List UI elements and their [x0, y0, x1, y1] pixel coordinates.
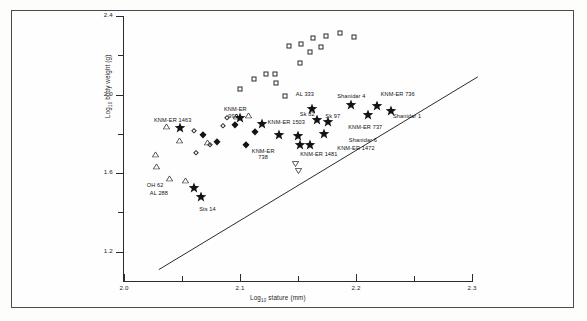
data-point-filled-diamond	[213, 138, 220, 145]
data-point-label: KNM-ER 736	[381, 91, 415, 97]
data-point-filled-star	[195, 191, 206, 202]
data-point-open-triangle	[177, 140, 183, 145]
data-point-open-square	[307, 50, 312, 55]
data-point-label: AL 333	[296, 91, 314, 97]
data-point-open-square	[351, 35, 356, 40]
data-point-label: KNM-ER 737	[348, 124, 382, 130]
data-point-open-square	[251, 77, 256, 82]
data-point-open-triangle	[163, 127, 169, 132]
data-point-open-square	[238, 86, 243, 91]
data-point-open-square	[298, 61, 303, 66]
data-point-filled-star	[304, 140, 315, 151]
data-point-open-diamond	[193, 150, 199, 156]
data-point-filled-star	[318, 128, 329, 139]
data-point-filled-diamond	[199, 131, 206, 138]
data-point-open-diamond	[219, 123, 225, 129]
data-point-open-triangle	[153, 166, 159, 171]
data-point-label: Shanidar 4	[337, 93, 365, 99]
data-point-label: 738	[258, 154, 268, 160]
data-point-filled-star	[274, 129, 285, 140]
data-point-filled-star	[256, 119, 267, 130]
data-point-label: AL 288	[150, 190, 168, 196]
data-point-open-square	[286, 44, 291, 49]
data-point-label: Sts 14	[199, 206, 216, 212]
data-point-open-square	[263, 71, 268, 76]
plot-area: KNM-ER 1463OH 62AL 288Sts 14KNM-ER993KNM…	[124, 16, 472, 281]
data-point-open-triangle	[166, 178, 172, 183]
data-point-open-square	[283, 93, 288, 98]
data-point-label: KNM-ER 1472	[337, 145, 374, 151]
data-point-label: 993	[228, 113, 238, 119]
data-point-label: Sk 82	[300, 111, 315, 117]
data-point-label: KNM-ER 1463	[154, 117, 191, 123]
data-point-open-triangle	[152, 155, 158, 160]
data-point-label: OH 62	[147, 182, 164, 188]
data-point-open-triangle	[245, 116, 251, 121]
data-point-label: KNM-ER 1481	[300, 151, 337, 157]
data-point-open-square	[272, 71, 277, 76]
data-point-open-diamond	[190, 128, 196, 134]
data-point-label: Shanidar 1	[393, 113, 421, 119]
data-point-open-square	[319, 45, 324, 50]
data-point-open-square	[273, 80, 278, 85]
data-point-open-square	[311, 35, 316, 40]
data-point-label: KNM-ER 1503	[268, 119, 305, 125]
data-point-filled-star	[362, 110, 373, 121]
data-point-filled-star	[346, 99, 357, 110]
data-point-filled-diamond	[242, 141, 249, 148]
data-point-open-square	[337, 30, 342, 35]
data-point-open-diamond	[207, 142, 213, 148]
data-point-open-square	[323, 33, 328, 38]
data-point-filled-star	[174, 123, 185, 134]
data-point-label: Sk 97	[325, 113, 340, 119]
figure-container: 2.42.01.61.2 2.02.12.22.3 Log10 body wei…	[0, 0, 587, 321]
data-point-label: Shanidar 6	[349, 137, 377, 143]
data-point-open-square	[299, 42, 304, 47]
